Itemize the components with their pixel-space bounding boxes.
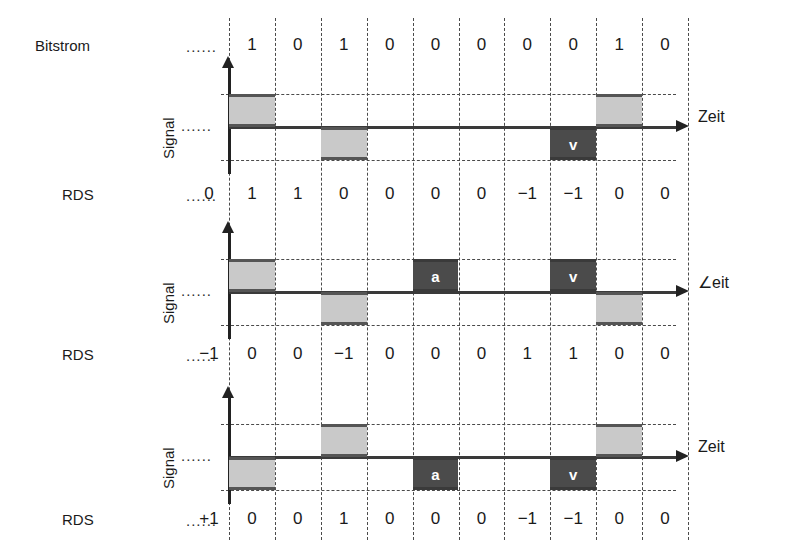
- bitstream-cell: 0: [504, 35, 550, 55]
- rds-cell: −1: [504, 184, 550, 204]
- rds-cell: 0: [367, 509, 413, 529]
- rds-cell: 0: [321, 184, 367, 204]
- signal-leading-dots: ......: [181, 117, 212, 134]
- rds-cell: 0: [642, 509, 688, 529]
- rds-cell: 1: [504, 344, 550, 364]
- rds-cell: 0: [596, 509, 642, 529]
- rds-cell: −1: [504, 509, 550, 529]
- rds-cell: −1: [550, 509, 596, 529]
- rds-cell: 0: [229, 344, 275, 364]
- level-line-lower: [221, 160, 676, 161]
- pulse-mark-v: v: [550, 268, 596, 283]
- bitstream-cell: 0: [550, 35, 596, 55]
- pulse-mark-a: a: [413, 268, 459, 283]
- signal-pulse: [229, 457, 275, 490]
- grid-line-vertical: [504, 18, 505, 540]
- grid-line-vertical: [642, 18, 643, 540]
- bitstream-cell: 0: [459, 35, 505, 55]
- grid-line-vertical: [275, 18, 276, 540]
- signal-pulse: [229, 94, 275, 127]
- grid-line-vertical: [367, 18, 368, 540]
- axis-arrow-up-icon: [222, 386, 234, 398]
- rds-initial-value: −1: [189, 344, 229, 364]
- time-axis-label: Zeit: [698, 438, 725, 456]
- signal-pulse: [596, 94, 642, 127]
- rds-label: RDS: [62, 511, 94, 528]
- rds-cell: 0: [596, 184, 642, 204]
- grid-line-vertical: [459, 18, 460, 540]
- grid-line-vertical: [321, 18, 322, 540]
- rds-initial-value: +1: [189, 509, 229, 529]
- signal-pulse: [321, 292, 367, 325]
- signal-axis-label: Signal: [160, 447, 177, 489]
- rds-initial-value: 0: [189, 184, 229, 204]
- bitstream-cell: 0: [275, 35, 321, 55]
- bitstream-label: Bitstrom: [35, 37, 90, 54]
- rds-cell: 0: [642, 344, 688, 364]
- rds-label: RDS: [62, 186, 94, 203]
- bitstream-cell: 1: [596, 35, 642, 55]
- signal-axis-label: Signal: [160, 117, 177, 159]
- bitstream-cell: 0: [642, 35, 688, 55]
- rds-cell: 0: [367, 184, 413, 204]
- axis-arrow-up-icon: [222, 56, 234, 68]
- rds-cell: 0: [275, 509, 321, 529]
- signal-leading-dots: ......: [181, 282, 212, 299]
- rds-cell: 0: [367, 344, 413, 364]
- ami-hdb3-line-coding-diagram: Bitstrom......1010000010Zeit......Signal…: [0, 0, 789, 558]
- pulse-mark-v: v: [550, 466, 596, 481]
- rds-cell: 0: [413, 184, 459, 204]
- rds-cell: 0: [459, 184, 505, 204]
- bitstream-cell: 0: [367, 35, 413, 55]
- rds-cell: −1: [321, 344, 367, 364]
- rds-label: RDS: [62, 346, 94, 363]
- signal-pulse: [321, 424, 367, 457]
- level-line-lower: [221, 325, 676, 326]
- signal-pulse: v: [550, 259, 596, 292]
- rds-cell: 0: [229, 509, 275, 529]
- rds-cell: 0: [413, 509, 459, 529]
- signal-pulse: [596, 424, 642, 457]
- signal-pulse: [321, 127, 367, 160]
- pulse-mark-a: a: [413, 466, 459, 481]
- time-axis-label: ∠eit: [698, 273, 729, 292]
- signal-pulse: [229, 259, 275, 292]
- signal-leading-dots: ......: [181, 447, 212, 464]
- signal-axis-label: Signal: [160, 282, 177, 324]
- rds-cell: 1: [321, 509, 367, 529]
- signal-pulse: a: [413, 259, 459, 292]
- signal-pulse: v: [550, 127, 596, 160]
- axis-arrow-right-icon: [676, 450, 689, 462]
- rds-cell: 1: [229, 184, 275, 204]
- rds-cell: 0: [413, 344, 459, 364]
- level-line-lower: [221, 490, 676, 491]
- rds-cell: 0: [596, 344, 642, 364]
- rds-cell: 0: [275, 344, 321, 364]
- bitstream-cell: 1: [229, 35, 275, 55]
- signal-pulse: [596, 292, 642, 325]
- bitstream-leading-dots: ......: [186, 38, 217, 55]
- rds-cell: 1: [275, 184, 321, 204]
- rds-cell: −1: [550, 184, 596, 204]
- time-axis-label: Zeit: [698, 108, 725, 126]
- axis-arrow-right-icon: [676, 120, 689, 132]
- rds-cell: 0: [459, 344, 505, 364]
- bitstream-cell: 1: [321, 35, 367, 55]
- rds-cell: 1: [550, 344, 596, 364]
- signal-pulse: v: [550, 457, 596, 490]
- pulse-mark-v: v: [550, 136, 596, 151]
- rds-cell: 0: [642, 184, 688, 204]
- rds-cell: 0: [459, 509, 505, 529]
- bitstream-cell: 0: [413, 35, 459, 55]
- axis-arrow-up-icon: [222, 221, 234, 233]
- axis-arrow-right-icon: [676, 285, 689, 297]
- signal-pulse: a: [413, 457, 459, 490]
